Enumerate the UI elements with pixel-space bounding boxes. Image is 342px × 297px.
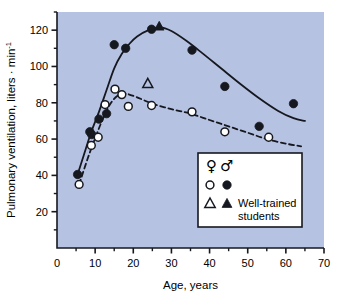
data-point-open-circle xyxy=(111,85,119,93)
figure-container: 20406080100120010203040506070Age, yearsP… xyxy=(0,0,342,297)
y-tick-label: 80 xyxy=(36,97,48,109)
x-tick-label: 10 xyxy=(89,257,101,269)
data-point-filled-circle xyxy=(95,115,103,123)
data-point-open-circle xyxy=(118,91,126,99)
data-point-open-circle xyxy=(101,101,109,109)
x-tick-label: 20 xyxy=(127,257,139,269)
data-point-open-circle xyxy=(188,108,196,116)
data-point-open-circle xyxy=(94,133,102,141)
data-point-filled-circle xyxy=(188,46,196,54)
y-axis-title: Pulmonary ventilation, liters · min-1 xyxy=(4,42,17,218)
data-point-filled-circle xyxy=(221,82,229,90)
y-tick-label: 40 xyxy=(36,169,48,181)
y-tick-label: 60 xyxy=(36,133,48,145)
x-tick-label: 60 xyxy=(280,257,292,269)
legend-filled-circle-icon xyxy=(223,181,231,189)
data-point-open-circle xyxy=(87,142,95,150)
y-axis-title-text: Pulmonary ventilation, liters · min-1 xyxy=(4,42,17,218)
x-tick-label: 0 xyxy=(54,257,60,269)
pulmonary-ventilation-chart: 20406080100120010203040506070Age, yearsP… xyxy=(0,0,342,297)
data-point-filled-circle xyxy=(102,109,110,117)
legend-male-symbol: ♂ xyxy=(220,157,233,175)
data-point-filled-circle xyxy=(121,44,129,52)
x-tick-label: 30 xyxy=(165,257,177,269)
data-point-open-circle xyxy=(124,103,132,111)
legend-open-circle-icon xyxy=(206,181,214,189)
data-point-filled-circle xyxy=(255,122,263,130)
data-point-open-circle xyxy=(221,128,229,136)
data-point-filled-circle xyxy=(73,170,81,178)
x-tick-label: 50 xyxy=(242,257,254,269)
y-tick-label: 120 xyxy=(30,24,48,36)
x-tick-label: 40 xyxy=(203,257,215,269)
data-point-open-circle xyxy=(148,102,156,110)
data-point-filled-circle xyxy=(110,40,118,48)
y-tick-label: 20 xyxy=(36,206,48,218)
data-point-filled-circle xyxy=(289,99,297,107)
x-axis-title: Age, years xyxy=(163,279,218,291)
x-tick-label: 70 xyxy=(318,257,330,269)
legend-female-symbol: ♀ xyxy=(206,157,217,175)
y-tick-label: 100 xyxy=(30,60,48,72)
legend-trained-label-line2: students xyxy=(238,210,280,222)
legend-trained-label-line1: Well-trained xyxy=(238,197,297,209)
data-point-open-circle xyxy=(75,181,83,189)
data-point-open-circle xyxy=(265,133,273,141)
